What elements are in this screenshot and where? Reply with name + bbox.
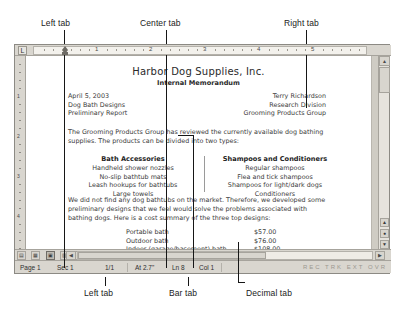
- annotation-center-tab: Center tab: [140, 18, 181, 28]
- column-bath-accessories: Bath Accessories Handheld shower nozzles…: [68, 155, 198, 198]
- ruler-track[interactable]: [33, 46, 367, 55]
- left-indent-marker[interactable]: [62, 52, 68, 55]
- memo-date: April 5, 2003: [68, 92, 127, 101]
- figure-root: Left tab Center tab Right tab L 1 2 3 4 …: [0, 0, 404, 311]
- cost-label: Portable bath: [126, 228, 169, 237]
- tab-indicator-left: [64, 55, 65, 268]
- scroll-up-icon[interactable]: ▲: [379, 56, 390, 66]
- scroll-right-icon[interactable]: ▶: [375, 251, 385, 260]
- column-heading-right: Shampoos and Conditioners: [210, 155, 340, 163]
- ruler-number-5: 5: [311, 45, 314, 54]
- leader-line-left-tab-bottom: [105, 277, 106, 286]
- vertical-ruler: 1 2 3 4: [15, 56, 26, 260]
- decimal-tab-connector: [238, 282, 245, 283]
- scroll-left-icon[interactable]: ◀: [66, 251, 76, 260]
- horizontal-scroll-row[interactable]: ▤ ▦ ▣ ▥ ◎ ◀ ▶: [15, 249, 391, 260]
- view-web-icon[interactable]: ▦: [31, 251, 40, 260]
- ruler-number-1: 1: [95, 45, 98, 54]
- status-bar: Page 1 Sec 1 1/1 At 2.7" Ln 8 Col 1 REC …: [15, 260, 391, 273]
- status-page-count: 1/1: [105, 264, 114, 271]
- list-item: Handheld shower nozzles: [68, 164, 198, 172]
- vertical-scrollbar[interactable]: ▲ ▲ ● ▼ ▼: [378, 56, 389, 260]
- vertical-scroll-thumb[interactable]: [379, 67, 390, 93]
- leader-line-bar-tab: [188, 277, 189, 286]
- memo-author: Terry Richardson: [244, 92, 326, 101]
- select-browse-object-icon[interactable]: ●: [380, 229, 389, 238]
- list-item: Leash hookups for bathtubs: [68, 181, 198, 189]
- memo-doctype: Preliminary Report: [68, 109, 127, 118]
- paragraph-two: We did not find any dog bathtubs on the …: [68, 196, 330, 223]
- status-line: Ln 8: [172, 264, 185, 271]
- ruler-number-3: 3: [203, 45, 206, 54]
- tab-indicator-center: [166, 55, 167, 268]
- tab-indicator-decimal: [238, 242, 239, 282]
- cost-row: Outdoor bath $76.00: [126, 237, 311, 246]
- list-item: Shampoos for light/dark dogs: [210, 181, 340, 189]
- view-print-icon[interactable]: ▣: [46, 251, 55, 260]
- memo-left-block: April 5, 2003 Dog Bath Designs Prelimina…: [68, 92, 127, 118]
- column-heading-left: Bath Accessories: [68, 155, 198, 163]
- memo-right-block: Terry Richardson Research Division Groom…: [244, 92, 326, 118]
- annotation-bar-tab: Bar tab: [169, 288, 197, 298]
- horizontal-ruler[interactable]: L 1 2 3 4 5: [15, 45, 391, 56]
- status-section: Sec 1: [57, 264, 74, 271]
- bar-tab-connector: [178, 135, 194, 136]
- status-modes: REC TRK EXT OVR: [303, 264, 387, 270]
- cost-label: Outdoor bath: [126, 237, 169, 246]
- document-subtitle: Internal Memorandum: [26, 79, 371, 87]
- status-page: Page 1: [20, 264, 41, 271]
- memo-project: Dog Bath Designs: [68, 101, 127, 110]
- column-shampoos-conditioners: Shampoos and Conditioners Regular shampo…: [210, 155, 340, 198]
- list-item: No-slip bathtub mats: [68, 173, 198, 181]
- memo-division: Research Division: [244, 101, 326, 110]
- tab-selector-button[interactable]: L: [18, 46, 27, 55]
- annotation-left-tab-bottom: Left tab: [84, 288, 113, 298]
- cost-value: $57.00: [254, 228, 276, 237]
- status-at: At 2.7": [135, 264, 154, 271]
- cost-row: Portable bath $57.00: [126, 228, 311, 237]
- previous-page-icon[interactable]: ▲: [380, 218, 389, 227]
- word-window: L 1 2 3 4 5: [14, 44, 390, 274]
- cost-value: $76.00: [254, 237, 276, 246]
- word-window-inner: L 1 2 3 4 5: [15, 45, 389, 273]
- document-content: Harbor Dog Supplies, Inc. Internal Memor…: [26, 56, 371, 260]
- status-column: Col 1: [199, 264, 214, 271]
- list-item: Flea and tick shampoos: [210, 173, 340, 181]
- paragraph-one: The Grooming Products Group has reviewed…: [68, 128, 330, 146]
- next-page-icon[interactable]: ▼: [380, 240, 389, 249]
- annotation-decimal-tab: Decimal tab: [246, 288, 292, 298]
- view-normal-icon[interactable]: ▤: [17, 251, 26, 260]
- memo-group: Grooming Products Group: [244, 109, 326, 118]
- annotation-right-tab: Right tab: [284, 18, 319, 28]
- ruler-number-4: 4: [257, 45, 260, 54]
- tab-indicator-bar: [193, 135, 194, 268]
- document-page[interactable]: Harbor Dog Supplies, Inc. Internal Memor…: [26, 56, 372, 260]
- bar-tab-rule: [204, 156, 205, 192]
- list-item: Regular shampoos: [210, 164, 340, 172]
- annotation-left-tab-top: Left tab: [41, 18, 70, 28]
- horizontal-scroll-track[interactable]: [77, 251, 373, 260]
- tab-indicator-right: [306, 55, 307, 108]
- ruler-number-2: 2: [149, 45, 152, 54]
- document-title: Harbor Dog Supplies, Inc.: [26, 66, 371, 77]
